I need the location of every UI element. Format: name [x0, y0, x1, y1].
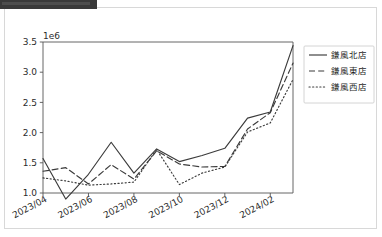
- x-tick-label: 2023/08: [102, 194, 140, 221]
- y-axis-exponent-label: 1e6: [43, 31, 60, 41]
- legend-label-1: 鎌風東店: [331, 66, 367, 76]
- y-axis-ticks: 3.53.02.52.01.51.0: [23, 37, 43, 198]
- chart-legend: 鎌風北店鎌風東店鎌風西店: [304, 46, 374, 103]
- x-tick-label: 2023/12: [193, 194, 231, 220]
- legend-label-2: 鎌風西店: [331, 82, 367, 92]
- banner-highlight: [2, 2, 90, 5]
- y-tick-label: 1.5: [23, 158, 37, 168]
- y-tick-label: 2.5: [23, 98, 37, 108]
- legend-label-0: 鎌風北店: [331, 50, 367, 60]
- x-tick-label: 2024/02: [238, 194, 276, 220]
- series-line-0: [43, 46, 293, 199]
- chart-card: 3.53.02.52.01.51.0 2023/042023/062023/08…: [4, 7, 377, 229]
- x-axis-ticks: 2023/042023/062023/082023/102023/122024/…: [11, 193, 276, 220]
- x-tick-label: 2023/10: [147, 194, 185, 221]
- chart-svg: 3.53.02.52.01.51.0 2023/042023/062023/08…: [5, 8, 378, 230]
- y-tick-label: 1.0: [23, 188, 38, 198]
- series-line-1: [43, 63, 293, 184]
- y-tick-label: 2.0: [23, 128, 38, 138]
- series-line-2: [43, 79, 293, 185]
- window-title-banner: [0, 0, 97, 9]
- x-tick-label: 2023/06: [56, 194, 94, 221]
- y-tick-label: 3.5: [23, 37, 37, 47]
- axes: [43, 42, 293, 193]
- data-series: [43, 46, 293, 199]
- line-chart: 3.53.02.52.01.51.0 2023/042023/062023/08…: [5, 8, 376, 228]
- y-tick-label: 3.0: [23, 67, 38, 77]
